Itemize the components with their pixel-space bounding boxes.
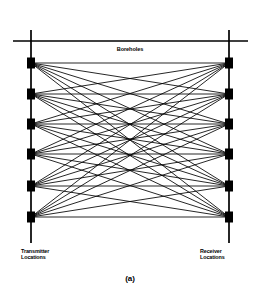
receiver-label-line2: Locations bbox=[200, 254, 225, 260]
receiver-marker bbox=[225, 58, 233, 69]
transmitter-marker bbox=[27, 181, 35, 192]
receiver-marker bbox=[225, 212, 233, 223]
ray-path-group bbox=[31, 63, 229, 217]
transmitter-label-line1: Transmitter bbox=[21, 248, 49, 254]
receiver-locations-label: ReceiverLocations bbox=[200, 248, 225, 261]
receiver-marker bbox=[225, 181, 233, 192]
boreholes-label: Boreholes bbox=[0, 46, 260, 53]
transmitter-marker bbox=[27, 119, 35, 130]
borehole-line-group bbox=[31, 30, 229, 243]
transmitter-marker bbox=[27, 212, 35, 223]
figure-crosshole-tomography: Boreholes TransmitterLocations ReceiverL… bbox=[0, 0, 260, 299]
transmitter-locations-label: TransmitterLocations bbox=[21, 248, 49, 261]
receiver-label-line1: Receiver bbox=[200, 248, 222, 254]
transmitter-label-line2: Locations bbox=[21, 254, 46, 260]
receiver-marker bbox=[225, 89, 233, 100]
receiver-marker bbox=[225, 119, 233, 130]
figure-caption: (a) bbox=[0, 274, 260, 283]
transmitter-marker bbox=[27, 89, 35, 100]
transmitter-marker bbox=[27, 149, 35, 160]
transmitter-marker bbox=[27, 58, 35, 69]
receiver-marker bbox=[225, 149, 233, 160]
